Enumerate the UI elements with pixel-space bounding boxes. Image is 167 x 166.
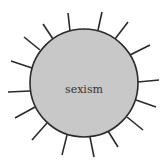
ray-line [8,91,30,92]
ray-line [127,117,143,130]
ray-line [130,45,150,55]
ray-line [98,12,102,30]
ray-line [108,131,118,147]
ray-line [32,123,47,140]
sexism-diagram: sexism [0,0,167,166]
center-label: sexism [65,83,104,96]
ray-line [115,22,128,39]
ray-line [62,135,67,155]
ray-line [24,37,40,50]
ray-line [15,107,35,118]
ray-line [43,24,53,39]
ray-line [90,137,94,157]
ray-line [138,80,159,82]
ray-line [11,61,32,68]
ray-line [136,100,156,107]
ray-line [68,13,70,31]
